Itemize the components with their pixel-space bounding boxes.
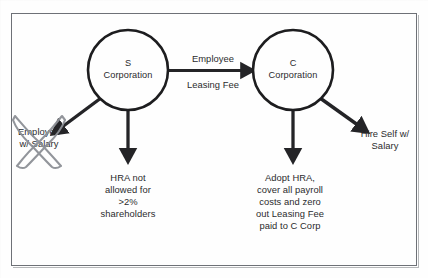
leaf-label-hra-not-allowed: HRA not allowed for >2% shareholders [83,172,173,220]
diagram-page: S Corporation C Corporation Employee Lea… [0,0,428,278]
arrow-c-to-hire-self [320,98,362,128]
leaf-label-hire-self: Hire Self w/ Salary [348,128,422,152]
edge-label-employee: Employee [174,53,252,65]
leaf-label-employee-w-salary: Employee w/ Salary [6,126,72,150]
edge-label-leasing-fee: Leasing Fee [170,79,256,91]
node-label-s-corporation: S Corporation [88,58,168,82]
leaf-label-adopt-hra: Adopt HRA, cover all payroll costs and z… [228,172,352,232]
node-label-c-corporation: C Corporation [253,58,333,82]
